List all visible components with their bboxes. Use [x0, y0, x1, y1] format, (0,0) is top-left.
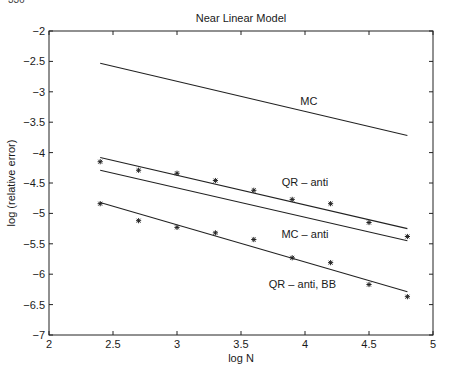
y-tick-label: −4.5 — [23, 177, 45, 189]
x-tick-label: 3.5 — [233, 338, 248, 350]
asterisk-marker-icon — [174, 171, 179, 176]
series-label: QR – anti — [282, 176, 328, 188]
x-tick-label: 3 — [174, 338, 180, 350]
asterisk-marker-icon — [213, 178, 218, 183]
line-chart: Near Linear Model 22.533.544.55−2−2.5−3−… — [0, 0, 450, 380]
asterisk-marker-icon — [251, 237, 256, 242]
asterisk-marker-icon — [213, 230, 218, 235]
fit-line — [100, 170, 407, 241]
y-tick-label: −6 — [32, 268, 45, 280]
asterisk-marker-icon — [405, 234, 410, 239]
asterisk-marker-icon — [328, 260, 333, 265]
x-tick-label: 2.5 — [105, 338, 120, 350]
asterisk-marker-icon — [136, 168, 141, 173]
series-mc-anti: MC – anti — [100, 170, 407, 241]
y-tick-label: −2.5 — [23, 55, 45, 67]
series-qr-anti-bb: QR – anti, BB — [100, 202, 407, 291]
y-axis-label: log (relative error) — [5, 140, 17, 227]
fit-line — [100, 63, 407, 135]
asterisk-marker-icon — [174, 225, 179, 230]
asterisk-marker-icon — [290, 255, 295, 260]
y-tick-label: −3.5 — [23, 116, 45, 128]
asterisk-marker-icon — [290, 197, 295, 202]
asterisk-marker-icon — [251, 188, 256, 193]
y-tick-label: −5.5 — [23, 238, 45, 250]
y-tick-label: −6.5 — [23, 299, 45, 311]
asterisk-marker-icon — [98, 201, 103, 206]
y-tick-label: −2 — [32, 25, 45, 37]
x-tick-label: 4.5 — [361, 338, 376, 350]
asterisk-marker-icon — [366, 282, 371, 287]
series-qr-anti-points — [98, 159, 410, 239]
asterisk-marker-icon — [98, 159, 103, 164]
asterisk-marker-icon — [405, 294, 410, 299]
series-label: QR – anti, BB — [269, 278, 336, 290]
asterisk-marker-icon — [136, 218, 141, 223]
series-mc: MC — [100, 63, 407, 135]
y-tick-label: −3 — [32, 86, 45, 98]
series-qr-anti: QR – anti — [100, 157, 407, 228]
series-label: MC — [300, 95, 317, 107]
fit-line — [100, 202, 407, 291]
x-tick-label: 5 — [430, 338, 436, 350]
plot-frame — [49, 31, 433, 335]
asterisk-marker-icon — [328, 201, 333, 206]
y-tick-label: −7 — [32, 329, 45, 341]
series-layer: MCQR – antiMC – antiQR – anti, BB — [98, 63, 410, 299]
series-label: MC – anti — [281, 228, 328, 240]
fit-line — [100, 157, 407, 228]
y-tick-label: −5 — [32, 207, 45, 219]
x-tick-label: 4 — [302, 338, 308, 350]
y-tick-label: −4 — [32, 147, 45, 159]
chart-title: Near Linear Model — [196, 12, 287, 24]
x-tick-label: 2 — [46, 338, 52, 350]
x-axis-label: log N — [228, 352, 254, 364]
asterisk-marker-icon — [366, 220, 371, 225]
